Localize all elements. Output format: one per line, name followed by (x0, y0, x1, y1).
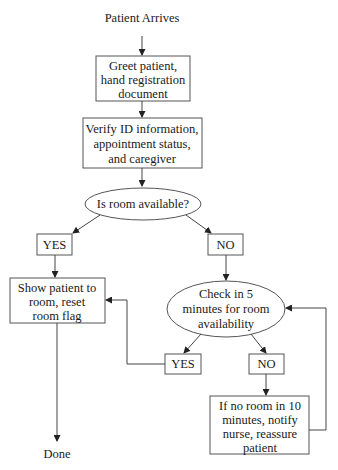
verify-line-1: Verify ID information, (86, 122, 199, 136)
node-yes-1: YES (37, 234, 72, 255)
yes-2-label: YES (171, 357, 195, 371)
notify-line-3: nurse, reassure (223, 427, 298, 441)
node-check-5-minutes: Check in 5 minutes for room availability (167, 281, 285, 337)
no-1-label: NO (216, 238, 234, 252)
greet-line-3: document (118, 87, 168, 101)
start-label: Patient Arrives (105, 11, 180, 25)
edge-decision-to-yes (73, 215, 100, 233)
show-line-3: room flag (33, 309, 83, 323)
edge-check-to-no2 (251, 334, 266, 353)
check-line-2: minutes for room (183, 302, 270, 316)
node-no-1: NO (208, 234, 243, 255)
node-room-available-decision: Is room available? (85, 188, 201, 220)
edge-check-to-yes2 (184, 334, 201, 353)
verify-line-2: appointment status, (93, 137, 190, 151)
yes-1-label: YES (43, 238, 67, 252)
check-line-1: Check in 5 (199, 287, 253, 301)
node-yes-2: YES (165, 354, 201, 374)
edge-yes2-to-show (106, 300, 165, 364)
no-2-label: NO (257, 357, 275, 371)
notify-line-2: minutes, notify (222, 413, 298, 427)
notify-line-1: If no room in 10 (219, 399, 301, 413)
notify-line-4: patient (243, 441, 278, 455)
room-available-label: Is room available? (97, 197, 190, 211)
end-label: Done (43, 447, 71, 461)
node-greet: Greet patient, hand registration documen… (96, 56, 190, 101)
node-notify-nurse: If no room in 10 minutes, notify nurse, … (210, 396, 309, 455)
check-line-3: availability (198, 317, 255, 331)
node-verify: Verify ID information, appointment statu… (83, 118, 202, 168)
patient-arrival-flowchart: Patient Arrives Greet patient, hand regi… (0, 0, 338, 470)
verify-line-3: and caregiver (108, 152, 177, 166)
edge-decision-to-no (186, 215, 211, 233)
node-show-patient: Show patient to room, reset room flag (10, 278, 105, 323)
node-no-2: NO (249, 354, 284, 374)
show-line-1: Show patient to (18, 281, 96, 295)
greet-line-2: hand registration (101, 73, 186, 87)
show-line-2: room, reset (29, 295, 86, 309)
greet-line-1: Greet patient, (109, 59, 177, 73)
